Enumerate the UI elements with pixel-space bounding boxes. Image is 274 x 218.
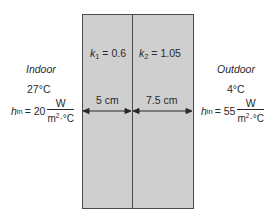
unit-denominator: m2·°C <box>47 110 74 124</box>
k2-value: = 1.05 <box>151 47 181 59</box>
outdoor-temperature: 4°C <box>227 83 245 95</box>
outdoor-label: Outdoor <box>217 63 255 75</box>
h-out-subscript: in <box>207 107 213 116</box>
unit-m: m <box>237 113 245 124</box>
layer-2-conductivity: k2 = 1.05 <box>139 47 181 61</box>
outdoor-h-coefficient: hin = 55 W m2·°C <box>201 98 264 124</box>
unit-denominator: m2·°C <box>237 110 264 124</box>
indoor-label: Indoor <box>26 63 56 75</box>
dimension-arrows <box>82 106 194 116</box>
unit-numerator: W <box>47 98 74 110</box>
layer-2-thickness: 7.5 cm <box>146 94 178 106</box>
unit-rest: ·°C <box>249 113 264 124</box>
h-out-value: = 55 <box>215 105 236 117</box>
layer-1-conductivity: k1 = 0.6 <box>90 47 126 61</box>
unit-m: m <box>47 113 55 124</box>
indoor-temperature: 27°C <box>27 83 50 95</box>
h-in-unit: W m2·°C <box>47 98 74 124</box>
k2-subscript: 2 <box>144 52 148 61</box>
h-in-subscript: in <box>17 107 23 116</box>
indoor-h-coefficient: hin = 20 W m2·°C <box>11 98 74 124</box>
layer-1-thickness: 5 cm <box>96 94 119 106</box>
unit-rest: ·°C <box>59 113 74 124</box>
k1-value: = 0.6 <box>102 47 126 59</box>
h-in-value: = 20 <box>25 105 46 117</box>
h-out-unit: W m2·°C <box>237 98 264 124</box>
unit-numerator: W <box>237 98 264 110</box>
k1-subscript: 1 <box>95 52 99 61</box>
